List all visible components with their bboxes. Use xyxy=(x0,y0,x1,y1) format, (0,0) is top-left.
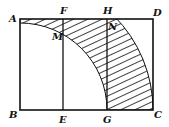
label-n: N xyxy=(107,21,118,32)
label-b: B xyxy=(8,109,17,120)
label-h: H xyxy=(102,5,113,16)
label-d: D xyxy=(152,7,162,18)
label-g: G xyxy=(103,114,112,125)
label-f: F xyxy=(59,5,68,16)
geometry-figure: A F H D M N B E G C xyxy=(0,0,169,127)
label-m: M xyxy=(51,31,64,42)
shaded-region xyxy=(20,0,153,110)
label-c: C xyxy=(154,109,162,120)
label-e: E xyxy=(58,114,67,125)
label-a: A xyxy=(8,13,17,24)
